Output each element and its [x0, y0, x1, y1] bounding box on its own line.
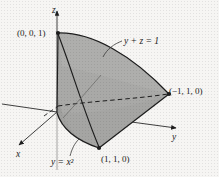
surface-label-plane-equation: y + z = 1: [124, 37, 159, 47]
curve-label-parabola-equation: y = x²: [51, 158, 73, 168]
solid-region: [44, 31, 171, 150]
axis-label-y: y: [172, 133, 176, 143]
leader-parabola-equation: [70, 139, 79, 156]
point-label-m110: (−1, 1, 0): [169, 87, 203, 96]
point-label-001: (0, 0, 1): [17, 29, 46, 38]
axis-label-z: z: [52, 6, 56, 16]
hidden-left-base-edge: [44, 106, 58, 116]
axis-y-negative: [2, 104, 57, 112]
axis-label-x: x: [16, 150, 20, 160]
axis-x: [19, 112, 57, 145]
vertex-dot-110: [97, 146, 101, 150]
figure-canvas: (0, 0, 1) y + z = 1 (−1, 1, 0) (1, 1, 0)…: [0, 0, 219, 177]
point-label-110: (1, 1, 0): [101, 155, 130, 164]
vertex-dot-001: [56, 31, 60, 35]
